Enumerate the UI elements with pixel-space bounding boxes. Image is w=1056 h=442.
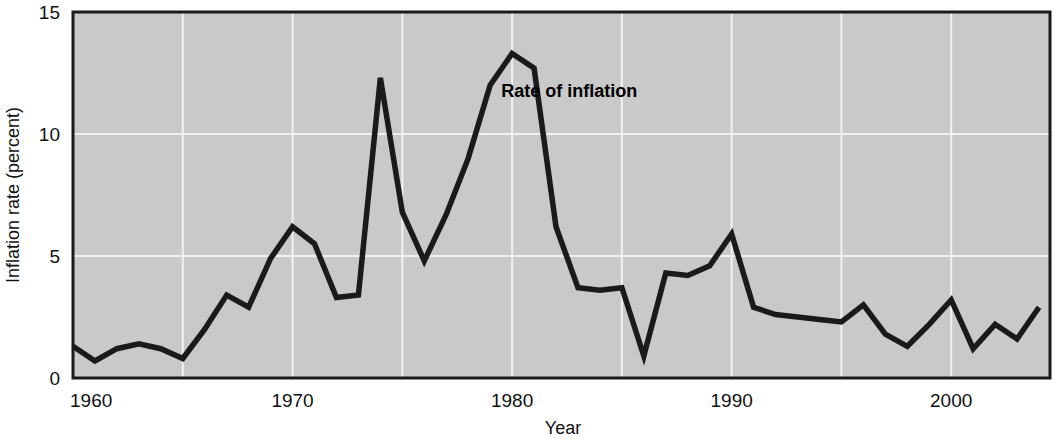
y-tick-label: 0 — [49, 368, 60, 389]
y-tick-label: 10 — [39, 124, 60, 145]
y-axis-title: Inflation rate (percent) — [3, 107, 23, 283]
series-label-annotation: Rate of inflation — [501, 81, 637, 101]
x-tick-label: 1980 — [491, 390, 533, 411]
x-tick-label: 1970 — [271, 390, 313, 411]
plot-area-background — [73, 12, 1050, 378]
chart-canvas: 051015 19601970198019902000 Year Inflati… — [0, 0, 1056, 442]
x-axis-tick-labels: 19601970198019902000 — [70, 390, 972, 411]
y-tick-label: 15 — [39, 2, 60, 23]
y-tick-label: 5 — [49, 246, 60, 267]
x-tick-label: 2000 — [930, 390, 972, 411]
x-tick-label: 1960 — [70, 390, 112, 411]
x-tick-label: 1990 — [711, 390, 753, 411]
x-axis-title: Year — [545, 418, 581, 438]
chart-annotations: Rate of inflation — [501, 81, 637, 101]
y-axis-tick-labels: 051015 — [39, 2, 60, 389]
inflation-rate-line-chart: 051015 19601970198019902000 Year Inflati… — [0, 0, 1056, 442]
